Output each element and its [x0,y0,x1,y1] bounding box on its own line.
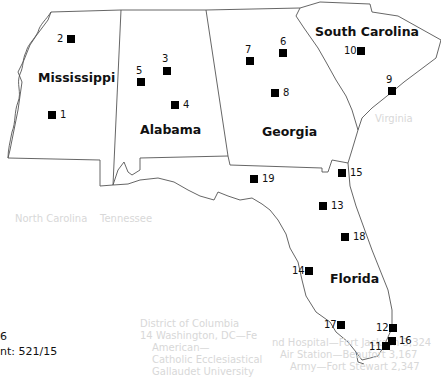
caption-line-2: nt: 521/15 [0,345,57,358]
marker-square-icon [389,324,397,332]
state-label-georgia: Georgia [262,124,317,139]
marker-square-icon [338,169,346,177]
marker-label: 2 [57,33,63,44]
marker-square-icon [279,49,287,57]
ghost-text: Air Station—Beaufort 3,167 [280,349,417,360]
marker-label: 1 [60,109,66,120]
marker-square-icon [137,78,145,86]
marker-square-icon [357,47,365,55]
marker-square-icon [246,57,254,65]
south-carolina-border [300,2,441,130]
marker-square-icon [271,89,279,97]
ghost-text: Catholic Ecclesiastical [152,354,262,365]
marker-label: 15 [350,167,363,178]
state-label-mississippi: Mississippi [38,70,115,85]
marker-label: 8 [283,87,289,98]
marker-label: 6 [280,36,286,47]
state-label-south-carolina: South Carolina [315,24,419,39]
mississippi-river-border [8,12,51,158]
marker-square-icon [337,321,345,329]
marker-label: 5 [136,65,142,76]
marker-square-icon [171,101,179,109]
ghost-text: American— [152,342,210,353]
marker-label: 12 [376,322,389,333]
marker-square-icon [341,233,349,241]
state-label-alabama: Alabama [140,122,201,137]
marker-label: 19 [262,173,275,184]
ghost-text: 14 Washington, DC—Fe [140,330,257,341]
marker-label: 16 [399,335,412,346]
marker-square-icon [67,35,75,43]
marker-square-icon [319,202,327,210]
ghost-text: District of Columbia [140,318,239,329]
ghost-text: Gallaudet University [152,366,254,377]
ghost-text: Army—Fort Stewart 2,347 [290,361,420,372]
marker-label: 13 [331,200,344,211]
ghost-text: Tennessee [100,213,152,224]
caption-line-1: 6 [0,330,7,343]
ghost-text: North Carolina [15,213,87,224]
ghost-text: Virginia [375,113,413,124]
marker-square-icon [48,111,56,119]
marker-label: 10 [344,45,357,56]
marker-label: 3 [162,53,168,64]
marker-label: 14 [292,265,305,276]
marker-label: 9 [386,74,392,85]
marker-label: 18 [353,231,366,242]
marker-square-icon [388,337,396,345]
state-label-florida: Florida [330,271,379,286]
marker-square-icon [250,175,258,183]
marker-square-icon [305,267,313,275]
marker-label: 11 [369,341,382,352]
mississippi-border [8,10,121,186]
marker-label: 17 [324,319,337,330]
marker-square-icon [163,67,171,75]
marker-label: 7 [245,44,251,55]
alabama-border [113,10,228,185]
marker-label: 4 [183,99,189,110]
marker-square-icon [388,87,396,95]
